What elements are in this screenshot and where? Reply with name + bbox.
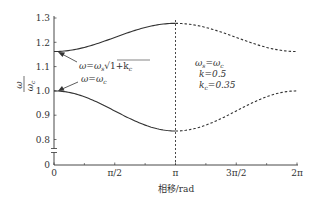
arrow-head-icon (58, 52, 65, 57)
x-tick-label: 0 (51, 168, 57, 178)
y-tick-label: 1.3 (36, 13, 51, 23)
annotation-lower-text: ω=ωc (81, 74, 107, 85)
y-tick-label: 1.0 (36, 86, 51, 96)
parameters-legend: ωs=ωc k=0.5 kc=0.35 (195, 58, 236, 91)
x-tick-label: 3π/2 (226, 168, 246, 178)
param-ws-wc: ωs=ωc (195, 58, 224, 69)
y-axis-label: ω ωc (14, 76, 36, 92)
y-label-numerator: ω (14, 81, 24, 89)
series-1-dashed (176, 91, 298, 131)
y-tick-label: 1.2 (36, 38, 50, 48)
series-0-dashed (176, 23, 298, 51)
y-tick-label: 0 (44, 160, 50, 170)
annotation-upper-text: ω=ωs√1+kc (79, 61, 133, 72)
x-axis-label: 相移/rad (158, 183, 195, 194)
annotation-upper: ω=ωs√1+kc (58, 52, 150, 72)
series-0-solid (54, 23, 176, 51)
chart-canvas: 1.31.21.11.00.90.800π/2π3π/22π ω ωc ω=ωs… (0, 0, 313, 208)
y-tick-label: 0.8 (36, 135, 51, 145)
x-tick-label: π/2 (107, 168, 122, 178)
annotation-lower: ω=ωc (58, 74, 107, 91)
axes: 1.31.21.11.00.90.800π/2π3π/22π (36, 13, 303, 178)
y-tick-label: 1.1 (36, 62, 50, 72)
series-1-solid (54, 91, 176, 131)
param-k: k=0.5 (199, 69, 227, 79)
param-kc: kc=0.35 (199, 80, 236, 91)
y-tick-label: 0.9 (36, 110, 51, 120)
x-tick-label: π (173, 168, 179, 178)
y-label-denominator: ωc (25, 80, 36, 91)
x-tick-label: 2π (291, 168, 303, 178)
